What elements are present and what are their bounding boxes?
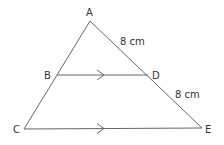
vertex-label-e: E — [205, 125, 211, 135]
segment-ce — [24, 128, 202, 129]
diagram-lines — [0, 0, 224, 145]
vertex-label-b: B — [44, 71, 51, 81]
vertex-label-d: D — [152, 71, 160, 81]
triangle-diagram: A B C D E 8 cm 8 cm — [0, 0, 224, 145]
measurement-label-de: 8 cm — [175, 90, 200, 100]
vertex-label-a: A — [86, 8, 93, 18]
measurement-label-ad: 8 cm — [120, 37, 145, 47]
vertex-label-c: C — [13, 125, 20, 135]
